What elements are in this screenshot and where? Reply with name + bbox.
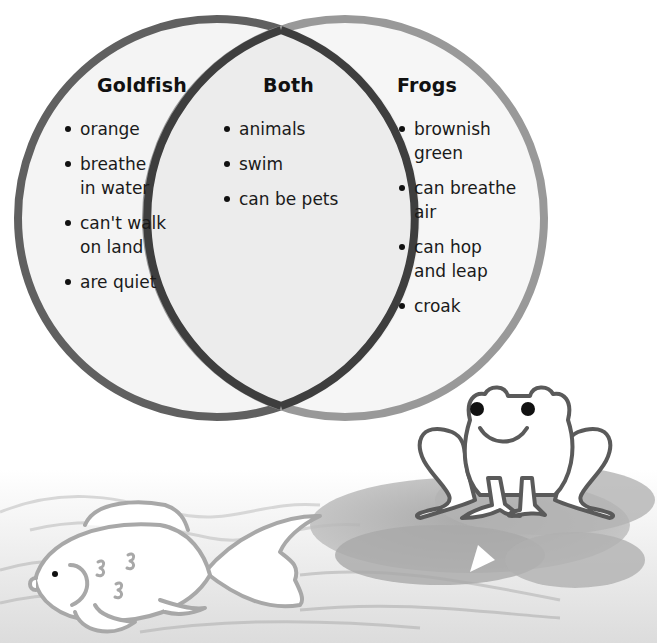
item-text: and leap (414, 259, 538, 283)
frogs-item: can breatheair (398, 176, 538, 224)
item-text: green (414, 141, 538, 165)
frogs-list: brownishgreen can breatheair can hopand … (398, 117, 538, 329)
goldfish-item: can't walkon land (64, 211, 184, 259)
both-heading: Both (263, 74, 314, 96)
goldfish-list: orange breathein water can't walkon land… (64, 117, 184, 305)
venn-diagram-graphics (0, 0, 657, 643)
goldfish-item: orange (64, 117, 184, 141)
item-text: croak (414, 294, 538, 318)
item-text: brownish (414, 117, 538, 141)
item-text: can be pets (239, 187, 363, 211)
both-item: animals (223, 117, 363, 141)
venn-diagram-stage: Goldfish orange breathein water can't wa… (0, 0, 657, 643)
item-text: in water (80, 176, 184, 200)
item-text: can't walk (80, 211, 184, 235)
frogs-item: croak (398, 294, 538, 318)
both-item: can be pets (223, 187, 363, 211)
goldfish-heading: Goldfish (97, 74, 187, 96)
item-text: can hop (414, 235, 538, 259)
item-text: swim (239, 152, 363, 176)
item-text: air (414, 200, 538, 224)
item-text: can breathe (414, 176, 538, 200)
item-text: orange (80, 117, 184, 141)
goldfish-item: breathein water (64, 152, 184, 200)
frogs-item: brownishgreen (398, 117, 538, 165)
goldfish-item: are quiet (64, 270, 184, 294)
both-list: animals swim can be pets (223, 117, 363, 222)
item-text: on land (80, 235, 184, 259)
frogs-item: can hopand leap (398, 235, 538, 283)
item-text: are quiet (80, 270, 184, 294)
item-text: animals (239, 117, 363, 141)
item-text: breathe (80, 152, 184, 176)
both-item: swim (223, 152, 363, 176)
frogs-heading: Frogs (397, 74, 457, 96)
